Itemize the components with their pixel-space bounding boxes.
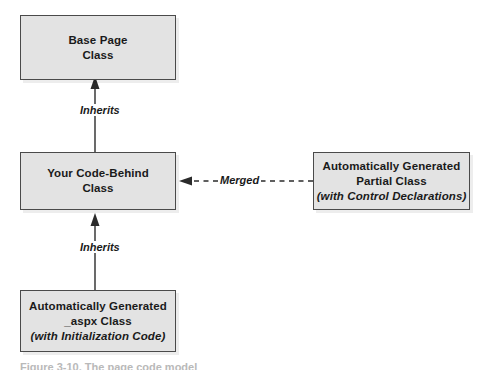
edge-label-merged: Merged [218, 174, 261, 186]
node-aspx-line-1: Automatically Generated [29, 299, 167, 314]
edge-label-inherits-bottom: Inherits [78, 241, 122, 253]
node-aspx-line-2: _aspx Class [64, 314, 132, 329]
node-aspx-line-3: (with Initialization Code) [31, 329, 166, 344]
node-code-behind-line-1: Your Code-Behind [47, 166, 149, 181]
node-partial-line-1: Automatically Generated [323, 159, 461, 174]
node-base-page-line-2: Class [82, 48, 113, 63]
node-code-behind-class: Your Code-Behind Class [20, 152, 176, 210]
page-code-model-diagram: Base Page Class Your Code-Behind Class A… [0, 0, 479, 370]
edge-label-inherits-top: Inherits [78, 104, 122, 116]
figure-caption: Figure 3-10. The page code model [20, 361, 460, 370]
node-code-behind-line-2: Class [82, 181, 113, 196]
node-partial-line-2: Partial Class [356, 174, 426, 189]
node-partial-line-3: (with Control Declarations) [317, 189, 467, 204]
node-partial-class: Automatically Generated Partial Class (w… [313, 152, 470, 210]
node-aspx-class: Automatically Generated _aspx Class (wit… [20, 290, 176, 352]
node-base-page-line-1: Base Page [68, 33, 127, 48]
node-base-page-class: Base Page Class [20, 15, 176, 80]
